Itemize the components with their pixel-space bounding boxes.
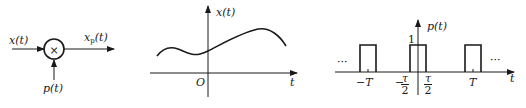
neg-T-label: −T bbox=[356, 76, 374, 89]
amplitude-label: 1 bbox=[408, 33, 415, 46]
diagram-canvas: x(t) × xp(t) p(t) x(t) t O p(t) t 1 ··· … bbox=[0, 0, 526, 108]
pos-T-label: T bbox=[469, 76, 478, 89]
modulation-label: p(t) bbox=[43, 82, 63, 95]
signal-t-label: t bbox=[290, 76, 295, 89]
pulse-t-label: t bbox=[510, 72, 515, 85]
origin-label: O bbox=[196, 76, 205, 89]
output-label: xp(t) bbox=[84, 31, 108, 45]
signal-curve bbox=[157, 29, 286, 56]
signal-y-label: x(t) bbox=[216, 6, 235, 19]
pulse-train-plot: p(t) t 1 ··· ··· −T T − τ 2 τ 2 bbox=[335, 20, 515, 97]
pulse-right bbox=[465, 45, 481, 72]
pos-tau-denominator: 2 bbox=[425, 84, 432, 97]
neg-tau-denominator: 2 bbox=[402, 84, 409, 97]
multiplier-block: x(t) × xp(t) p(t) bbox=[9, 31, 114, 95]
pulse-y-label: p(t) bbox=[427, 20, 447, 33]
input-label: x(t) bbox=[9, 34, 28, 47]
left-ellipsis: ··· bbox=[337, 56, 348, 69]
right-ellipsis: ··· bbox=[490, 54, 501, 67]
signal-plot: x(t) t O bbox=[150, 6, 297, 97]
pulse-left bbox=[360, 45, 376, 72]
multiply-icon: × bbox=[49, 44, 58, 57]
